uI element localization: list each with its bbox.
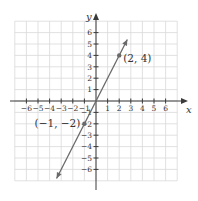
y-tick-label: 2 (87, 74, 92, 83)
x-tick-label: 2 (117, 104, 122, 113)
x-tick-label: −5 (32, 104, 43, 113)
y-tick-label: −4 (81, 142, 92, 151)
y-tick-label: −5 (81, 154, 92, 163)
x-tick-label: 3 (128, 104, 133, 113)
point-label: (−1, −2) (35, 117, 81, 129)
coordinate-plane: −6−5−4−3−2−1123456−6−5−4−3−2−1123456 (2,… (0, 0, 198, 201)
x-tick-label: 1 (105, 104, 110, 113)
y-tick-label: 3 (87, 63, 92, 72)
y-tick-label: −6 (81, 165, 92, 174)
point-marker (117, 53, 121, 57)
y-tick-label: 5 (87, 40, 92, 49)
x-tick-label: −2 (67, 104, 78, 113)
point-label: (2, 4) (123, 52, 151, 64)
x-axis-label: x (186, 104, 192, 115)
y-tick-label: 1 (87, 85, 92, 94)
x-tick-label: −6 (21, 104, 32, 113)
y-tick-label: 6 (87, 28, 92, 37)
y-tick-label: 4 (87, 51, 92, 60)
plotted-points: (2, 4)(−1, −2) (35, 52, 152, 128)
point-marker (82, 122, 86, 126)
y-axis-label: y (85, 11, 92, 22)
axes (10, 13, 188, 190)
x-tick-label: −4 (44, 104, 55, 113)
y-axis-arrow-icon (93, 13, 99, 20)
x-tick-label: 4 (140, 104, 145, 113)
x-tick-label: 6 (163, 104, 168, 113)
y-tick-label: −3 (81, 131, 92, 140)
x-tick-label: −3 (56, 104, 67, 113)
x-tick-label: 5 (152, 104, 157, 113)
